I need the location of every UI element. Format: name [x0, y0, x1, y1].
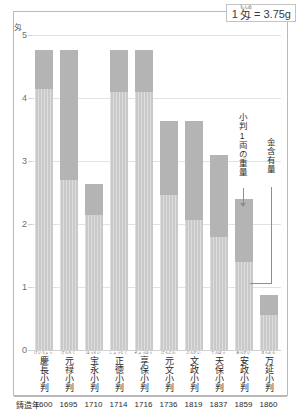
x-axis-label-text: 万延小判	[264, 356, 274, 394]
x-axis-label-text: 元禄小判	[64, 356, 74, 394]
year-value-元文小判: 1736	[156, 400, 181, 409]
x-axis-label-元禄小判: げんろく元禄小判	[56, 351, 81, 394]
year-row: 鋳造年 160016951710171417161736181918371859…	[14, 396, 287, 411]
annotation-leader-gold-vertical	[271, 187, 272, 284]
annotation-leader-gold-horizontal	[250, 283, 272, 284]
x-axis-label-元文小判: げんぶん元文小判	[156, 351, 181, 394]
x-axis-labels: けいちょう慶長小判げんろく元禄小判ほうえい宝永小判しょうとく正徳小判きょうほう享…	[31, 351, 281, 396]
bar-宝永小判	[85, 184, 103, 350]
x-axis-label-宝永小判: ほうえい宝永小判	[81, 351, 106, 394]
unit-legend: 1 もんめ 匁 = 3.75g	[226, 4, 296, 22]
year-value-天保小判: 1837	[206, 400, 231, 409]
y-tick-label-5: 5	[15, 31, 27, 39]
y-tick-label-4: 4	[15, 94, 27, 102]
legend-unit-group: もんめ 匁	[240, 6, 252, 21]
bar-慶長小判	[35, 50, 53, 350]
x-axis-label-text: 正徳小判	[114, 356, 124, 394]
y-tick-label-1: 1	[15, 283, 27, 291]
x-axis-label-万延小判: まんえん万延小判	[256, 351, 281, 394]
bar-segment-gold-content	[135, 92, 153, 350]
x-axis-label-text: 享保小判	[139, 356, 149, 394]
y-tick-label-0: 0	[15, 346, 27, 354]
year-value-慶長小判: 1600	[31, 400, 56, 409]
x-axis-label-text: 天保小判	[214, 356, 224, 394]
x-axis-label-慶長小判: けいちょう慶長小判	[31, 351, 56, 394]
x-axis-label-安政小判: あんせい安政小判	[231, 351, 256, 394]
legend-equals: = 3.75g	[254, 8, 291, 20]
y-tick-mark-5	[28, 35, 32, 36]
bar-元禄小判	[60, 50, 78, 350]
year-value-文政小判: 1819	[181, 400, 206, 409]
annotation-gold-content: 金含有量	[265, 138, 275, 174]
year-value-元禄小判: 1695	[56, 400, 81, 409]
x-axis-label-text: 宝永小判	[89, 356, 99, 394]
legend-number: 1	[232, 8, 238, 20]
annotation-total-weight: 小判1両の重量	[237, 113, 247, 177]
y-axis-unit: 匁	[14, 24, 22, 32]
y-tick-mark-3	[28, 161, 32, 162]
x-axis-label-天保小判: てんぽう天保小判	[206, 351, 231, 394]
x-axis-label-享保小判: きょうほう享保小判	[131, 351, 156, 394]
bar-segment-gold-content	[210, 237, 228, 350]
annotation-arrowhead-total-weight	[240, 203, 246, 207]
bar-segment-gold-content	[185, 220, 203, 350]
bar-正徳小判	[110, 50, 128, 350]
chart-figure: 1 もんめ 匁 = 3.75g 012345小判1両の重量金含有量 匁 けいちょ…	[0, 0, 301, 412]
bar-天保小判	[210, 155, 228, 350]
bar-segment-gold-content	[235, 262, 253, 350]
bar-segment-gold-content	[160, 195, 178, 350]
year-value-享保小判: 1716	[131, 400, 156, 409]
bar-segment-gold-content	[260, 315, 278, 350]
bar-文政小判	[185, 121, 203, 350]
bar-segment-gold-content	[110, 92, 128, 350]
y-tick-mark-4	[28, 98, 32, 99]
bar-segment-gold-content	[85, 215, 103, 350]
x-axis-label-text: 文政小判	[189, 356, 199, 394]
year-value-安政小判: 1859	[231, 400, 256, 409]
gridline-5	[31, 35, 281, 36]
bar-segment-gold-content	[35, 89, 53, 350]
bar-安政小判	[235, 199, 253, 350]
x-axis-label-text: 慶長小判	[39, 356, 49, 394]
x-axis-label-text: 安政小判	[239, 356, 249, 394]
bar-万延小判	[260, 295, 278, 350]
x-axis-label-正徳小判: しょうとく正徳小判	[106, 351, 131, 394]
y-tick-label-2: 2	[15, 220, 27, 228]
bar-segment-gold-content	[60, 180, 78, 350]
bar-享保小判	[135, 50, 153, 350]
y-tick-mark-1	[28, 287, 32, 288]
legend-unit: 匁	[240, 10, 251, 21]
bar-元文小判	[160, 121, 178, 350]
x-axis-label-文政小判: ぶんせい文政小判	[181, 351, 206, 394]
plot-area: 012345小判1両の重量金含有量	[31, 35, 281, 350]
y-tick-mark-2	[28, 224, 32, 225]
year-value-正徳小判: 1714	[106, 400, 131, 409]
y-tick-label-3: 3	[15, 157, 27, 165]
year-value-宝永小判: 1710	[81, 400, 106, 409]
year-value-万延小判: 1860	[256, 400, 281, 409]
x-axis-label-text: 元文小判	[164, 356, 174, 394]
